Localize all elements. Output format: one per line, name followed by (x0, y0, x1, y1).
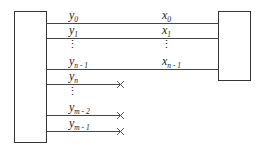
ellipsis-left-1: ⋮ (67, 42, 73, 46)
cross-icon (116, 80, 125, 89)
cross-icon (116, 127, 125, 136)
left-block (14, 11, 47, 143)
label-subscript: m - 2 (74, 107, 89, 116)
label-y-n-1: yn - 1 (69, 55, 88, 70)
label-subscript: n (74, 76, 78, 85)
unconnected-line-n (46, 84, 120, 85)
label-y1: y1 (69, 24, 78, 39)
label-y-m-2: ym - 2 (69, 101, 90, 116)
ellipsis-right: ⋮ (161, 42, 167, 46)
label-subscript: m - 1 (74, 123, 89, 132)
label-x-n-1: xn - 1 (162, 55, 181, 70)
label-subscript: n - 1 (167, 61, 181, 70)
label-y0: y0 (69, 9, 78, 24)
label-subscript: n - 1 (74, 61, 88, 70)
label-y-n: yn (69, 70, 78, 85)
label-x1: x1 (162, 24, 171, 39)
ellipsis-left-2: ⋮ (67, 89, 73, 93)
right-block (218, 11, 251, 81)
label-x0: x0 (162, 9, 171, 24)
label-subscript: 0 (167, 15, 171, 24)
label-subscript: 0 (74, 15, 78, 24)
cross-icon (116, 111, 125, 120)
label-y-m-1: ym - 1 (69, 117, 90, 132)
